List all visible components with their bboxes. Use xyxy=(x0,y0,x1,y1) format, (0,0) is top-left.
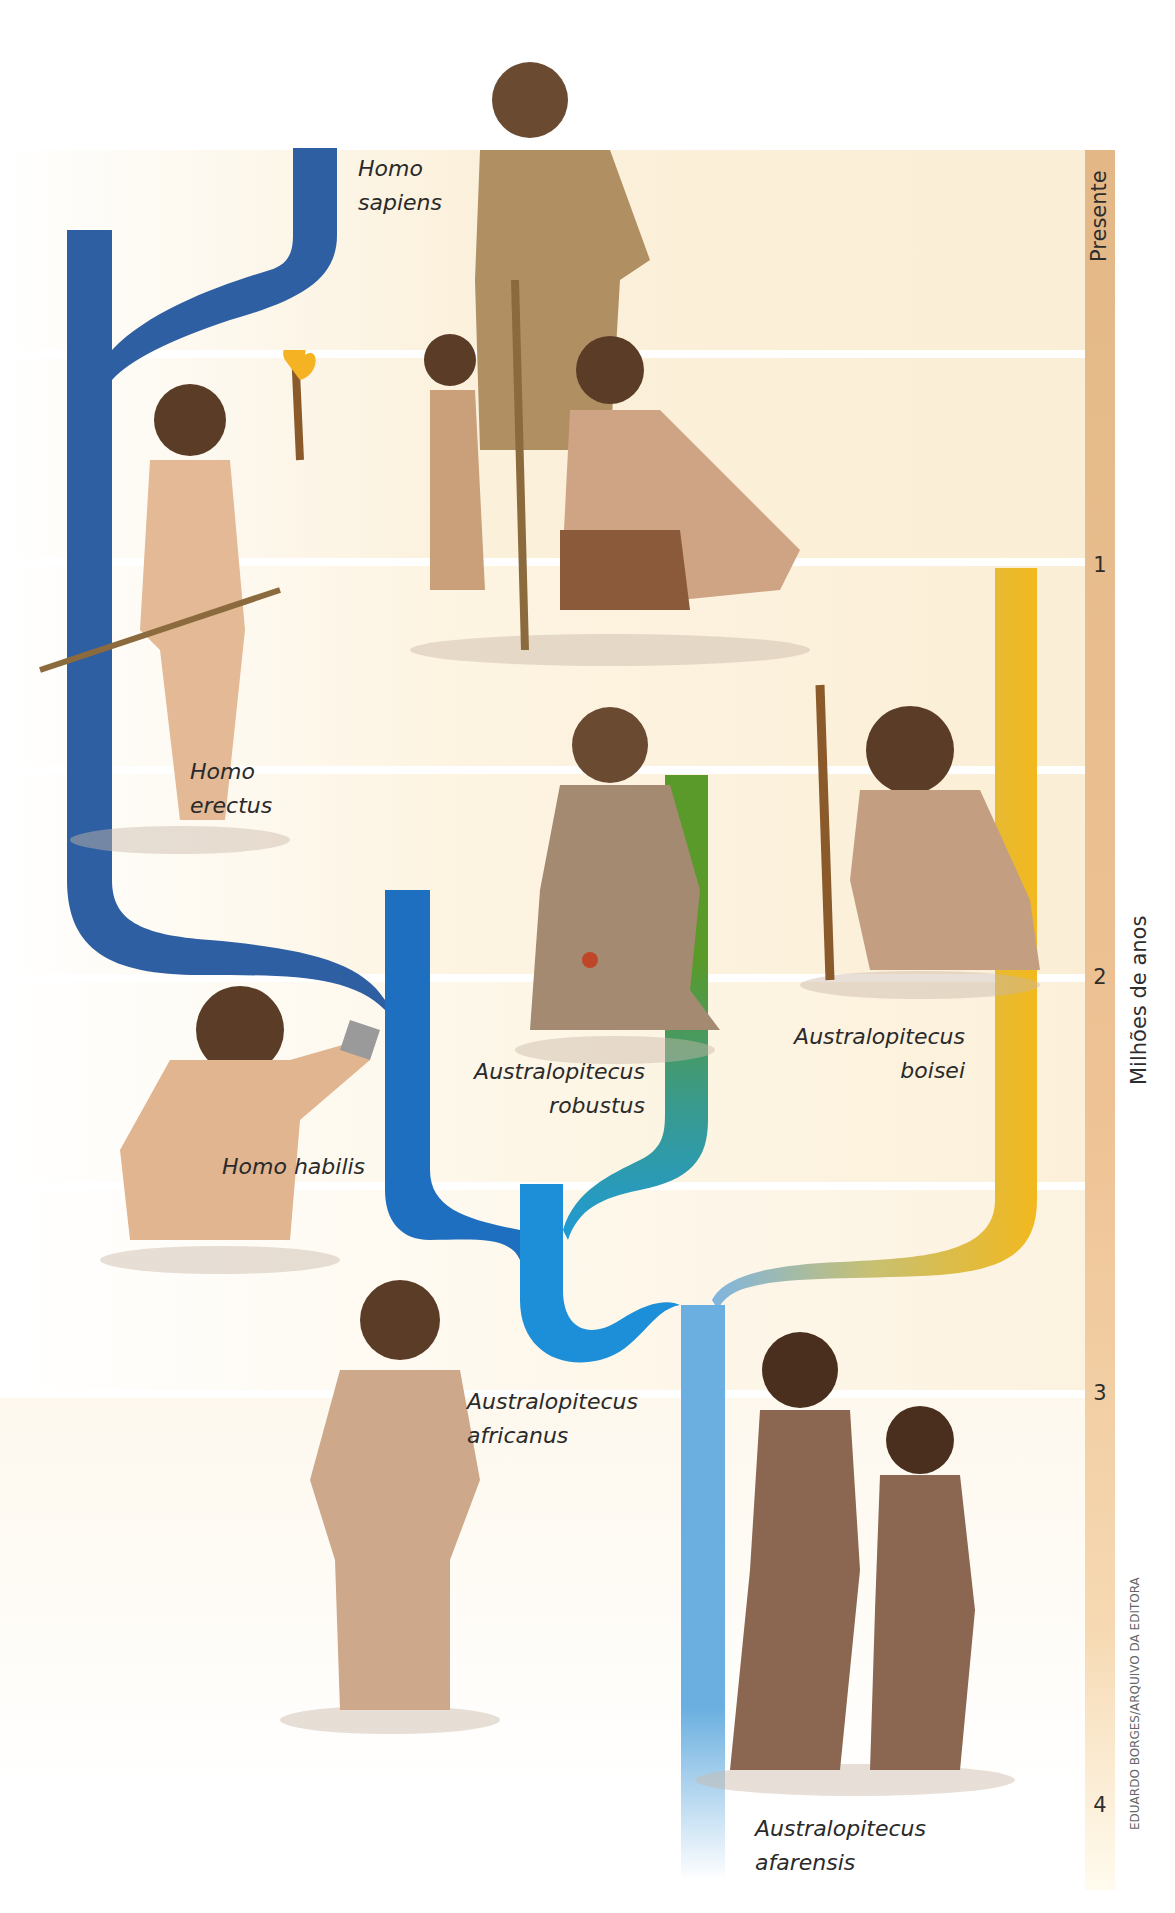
axis-label-milhoes-de-anos: Milhões de anos xyxy=(1127,916,1151,1085)
tick-3: 3 xyxy=(1085,1381,1115,1405)
figure-homo-erectus xyxy=(30,350,330,860)
tick-4: 4 xyxy=(1085,1793,1115,1817)
evolution-diagram: Homo sapiens Homo erectus Homo habilis A… xyxy=(0,0,1175,1913)
label-homo-habilis: Homo habilis xyxy=(222,1150,365,1184)
label-australopitecus-boisei: Australopitecus boisei xyxy=(790,1020,965,1088)
time-axis-bar xyxy=(1085,150,1115,1890)
label-homo-sapiens: Homo sapiens xyxy=(358,152,442,220)
image-credit: EDUARDO BORGES/ARQUIVO DA EDITORA xyxy=(1128,1577,1142,1830)
branch-homo-sapiens xyxy=(112,148,337,380)
tick-presente: Presente xyxy=(1087,170,1111,262)
figure-australopitecus-africanus xyxy=(280,1260,500,1740)
label-australopitecus-robustus: Australopitecus robustus xyxy=(470,1055,645,1123)
figure-australopitecus-robustus xyxy=(500,690,730,1070)
label-homo-erectus: Homo erectus xyxy=(190,755,272,823)
figure-homo-habilis xyxy=(70,970,400,1280)
figure-australopitecus-afarensis xyxy=(690,1310,1020,1800)
tick-1: 1 xyxy=(1085,553,1115,577)
label-australopitecus-africanus: Australopitecus africanus xyxy=(467,1385,638,1453)
branch-australopitecus-africanus xyxy=(520,1184,680,1363)
figure-australopitecus-boisei xyxy=(790,680,1050,1010)
tick-2: 2 xyxy=(1085,965,1115,989)
figure-homo-sapiens-group xyxy=(360,30,860,670)
label-australopitecus-afarensis: Australopitecus afarensis xyxy=(755,1812,926,1880)
